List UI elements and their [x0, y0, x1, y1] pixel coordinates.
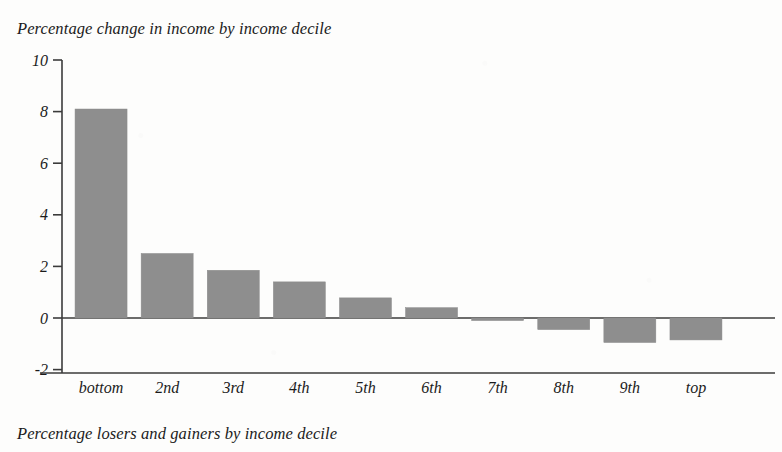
y-tick-label: -2	[35, 361, 48, 378]
y-tick-label: 6	[40, 155, 48, 172]
y-tick-label: 2	[40, 258, 48, 275]
bar	[207, 270, 259, 318]
bar	[75, 109, 127, 318]
x-tick-label: 7th	[487, 379, 507, 396]
bar	[670, 318, 722, 340]
x-tick-label: 8th	[554, 379, 574, 396]
x-tick-label: 9th	[620, 379, 640, 396]
x-tick-label: 2nd	[155, 379, 180, 396]
bar	[472, 318, 524, 321]
figure-page: Percentage change in income by income de…	[0, 0, 782, 452]
y-tick-label: 10	[32, 52, 48, 69]
bar-chart-plot: 1086420-2 bottom2nd3rd4th5th6th7th8th9th…	[0, 0, 782, 452]
bar	[273, 282, 325, 318]
y-tick-label: 8	[40, 103, 48, 120]
bar	[604, 318, 656, 343]
x-tick-label: 5th	[355, 379, 375, 396]
y-axis: 1086420-2	[32, 52, 775, 379]
y-tick-label: 0	[40, 310, 48, 327]
chart-svg: 1086420-2 bottom2nd3rd4th5th6th7th8th9th…	[0, 0, 782, 452]
y-tick-label: 4	[40, 206, 48, 223]
bar	[538, 318, 590, 330]
x-tick-label: 3rd	[221, 379, 245, 396]
x-tick-labels: bottom2nd3rd4th5th6th7th8th9thtop	[79, 379, 706, 397]
bar	[339, 298, 391, 318]
x-tick-label: bottom	[79, 379, 123, 396]
x-tick-label: 4th	[289, 379, 309, 396]
bars-group	[75, 109, 722, 342]
bar	[141, 254, 193, 319]
x-tick-label: 6th	[421, 379, 441, 396]
bottom-caption: Percentage losers and gainers by income …	[17, 424, 337, 444]
bar	[406, 308, 458, 318]
x-tick-label: top	[686, 379, 706, 397]
